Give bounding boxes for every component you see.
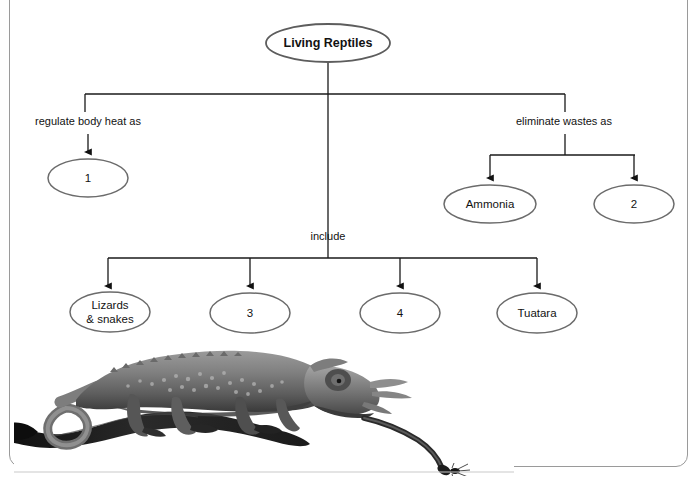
node-label: 3 [247,307,253,319]
node-lizards-and-snakes[interactable]: Lizards & snakes [70,292,150,332]
edge-label-regulate-body-heat: regulate body heat as [35,115,141,127]
edge-label-include: include [311,230,346,242]
connector-lines [85,62,635,286]
chameleon-photograph [14,336,514,476]
node-4[interactable]: 4 [360,293,440,333]
node-ellipse [70,292,150,332]
node-label: Ammonia [466,198,515,210]
node-3[interactable]: 3 [210,293,290,333]
node-label: 4 [397,307,404,319]
node-label: Tuatara [517,307,557,319]
node-label: 2 [631,198,637,210]
node-tuatara[interactable]: Tuatara [497,293,577,333]
node-ammonia[interactable]: Ammonia [444,185,536,223]
node-living-reptiles[interactable]: Living Reptiles [266,24,390,62]
page-root: regulate body heat as eliminate wastes a… [0,0,698,487]
node-2[interactable]: 2 [594,185,674,223]
node-1[interactable]: 1 [48,159,128,197]
node-label-line2: & snakes [86,313,134,325]
node-label: 1 [85,172,91,184]
node-label: Living Reptiles [284,36,373,50]
node-label-line1: Lizards [91,299,128,311]
edge-label-eliminate-wastes: eliminate wastes as [516,115,612,127]
